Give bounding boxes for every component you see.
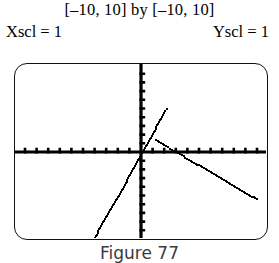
figure-caption: Figure 77 (0, 243, 279, 263)
graph-plot (15, 64, 266, 238)
yscl-label: Yscl = 1 (213, 20, 269, 44)
window-spec-header: [–10, 10] by [–10, 10] Xscl = 1 Yscl = 1 (0, 0, 279, 44)
xscl-label: Xscl = 1 (6, 20, 62, 44)
scale-settings-row: Xscl = 1 Yscl = 1 (0, 20, 279, 44)
viewing-window-range: [–10, 10] by [–10, 10] (0, 0, 279, 20)
calculator-screen (14, 63, 268, 240)
